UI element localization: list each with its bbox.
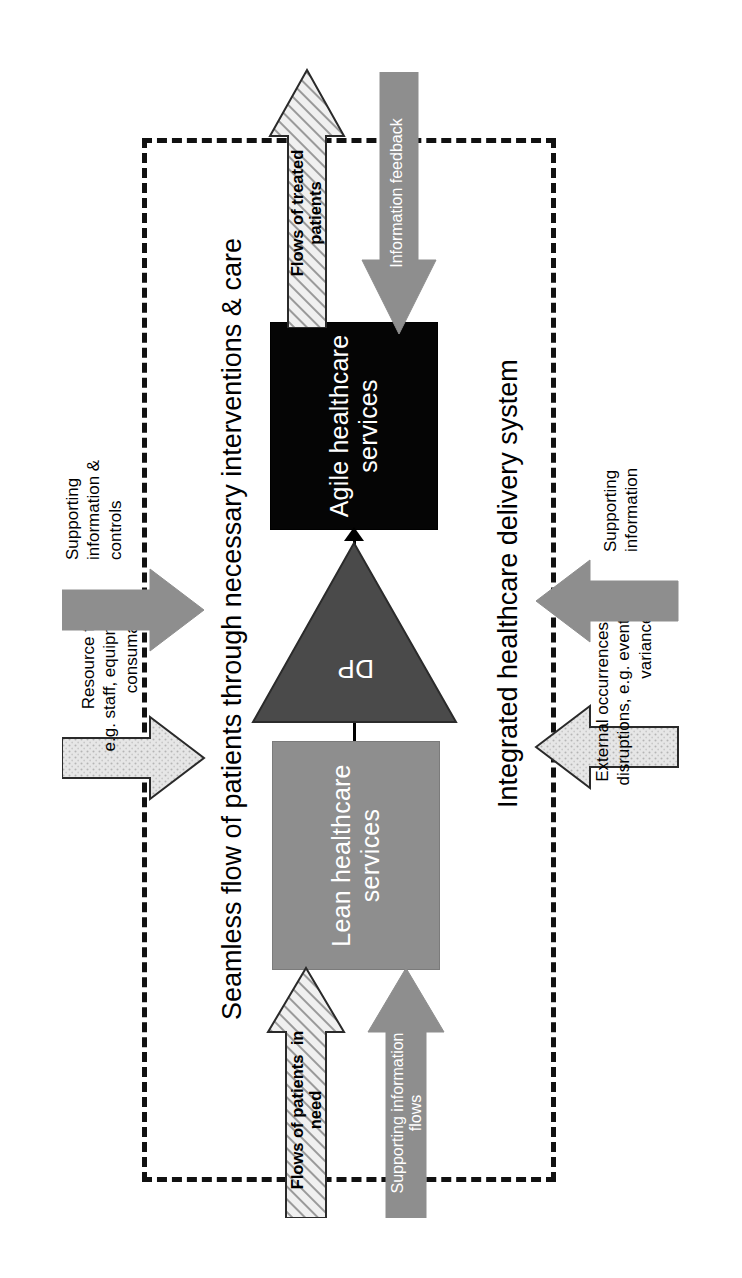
agile-healthcare-services-label: Agile healthcare services	[325, 335, 383, 518]
supporting-information-controls-caption: Supporting information & controls	[62, 310, 126, 560]
seamless-flow-caption: Seamless flow of patients through necess…	[216, 238, 248, 1020]
rotated-figure-wrapper: Lean healthcare services Agile healthcar…	[0, 0, 742, 1278]
lean-healthcare-services-box[interactable]: Lean healthcare services	[272, 741, 440, 970]
external-occurrences-caption: External occurrences & disruptions, e.g.…	[592, 606, 656, 906]
supporting-information-flows-arrow[interactable]	[366, 966, 446, 1218]
diagram-canvas: Lean healthcare services Agile healthcar…	[0, 0, 742, 1278]
supporting-information-arrow[interactable]	[534, 558, 680, 644]
lean-healthcare-services-label: Lean healthcare services	[327, 764, 385, 946]
supporting-information-controls-arrow[interactable]	[62, 567, 206, 653]
decoupling-point-triangle[interactable]	[250, 540, 460, 725]
connector-arrowhead-icon	[344, 527, 364, 541]
supporting-information-caption: Supporting information	[600, 322, 643, 552]
decoupling-point-label: DP	[331, 653, 381, 684]
flows-of-patients-in-need-arrow[interactable]	[266, 966, 346, 1218]
flows-of-treated-patients-arrow[interactable]	[268, 68, 346, 328]
agile-healthcare-services-box[interactable]: Agile healthcare services	[270, 322, 438, 530]
integrated-system-caption: Integrated healthcare delivery system	[492, 359, 524, 808]
information-feedback-arrow[interactable]	[360, 72, 438, 338]
